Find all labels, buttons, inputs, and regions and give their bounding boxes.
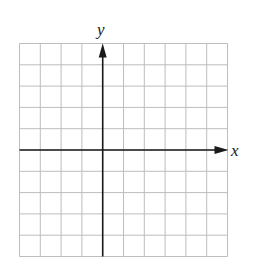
x-axis-label: x xyxy=(230,141,239,160)
y-axis-arrow-icon xyxy=(99,44,107,58)
x-axis-arrow-icon xyxy=(215,146,229,154)
coordinate-plane: x y xyxy=(0,0,257,267)
y-axis-label: y xyxy=(95,20,105,39)
